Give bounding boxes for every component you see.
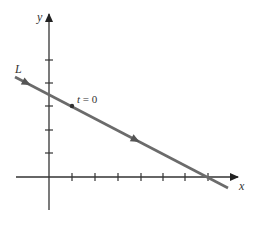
line-label: L [14,62,22,76]
parametric-line-diagram: y x L t = 0 [0,0,257,226]
point-label: t = 0 [77,93,98,105]
x-axis-label: x [238,179,245,193]
y-axis-label: y [36,10,43,24]
direction-arrow-icon [21,77,33,88]
y-axis: y [36,10,53,210]
point-label-eq: = 0 [80,93,98,105]
x-axis: x [16,173,245,193]
point-t0: t = 0 [70,93,98,108]
direction-arrow-icon [130,134,142,145]
point-marker [70,104,74,108]
line-L: L [14,62,228,188]
